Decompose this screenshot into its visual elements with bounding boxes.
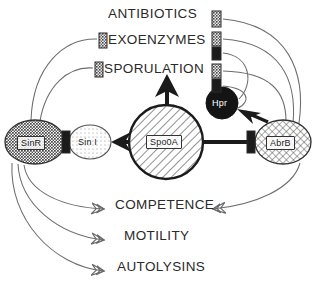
output-label-exoenzymes: EXOENZYMES [108,32,206,47]
diagram-canvas: ANTIBIOTICS EXOENZYMES SPORULATION COMPE… [0,0,316,283]
bar-abrb-sporulation [212,64,221,78]
edge-sinr-to-motility [18,164,104,240]
edge-sinr-to-autolysins [12,163,104,271]
node-label-sinr: SinR [17,136,45,150]
bar-spo0a-sinr [62,131,70,153]
arc-group-sinr-up [31,39,97,121]
node-group [5,87,311,179]
edge-sinr-to-exoenzymes [31,39,97,120]
bar-spo0a-abrb [247,131,255,153]
output-label-antibiotics: ANTIBIOTICS [108,6,197,21]
bar-abrb-exoenzymes [212,32,221,46]
edge-sinr-to-sporulation [40,68,93,121]
bar-abrb-antibiotics [212,11,221,27]
node-label-hpr: Hpr [212,98,227,108]
bar-sinr-sporulation [95,62,103,77]
output-label-sporulation: SPORULATION [104,61,204,76]
edge-abrb-to-competence [213,163,300,209]
node-label-spo0a: Spo0A [146,135,182,149]
edge-sinr-to-competence [24,165,104,209]
arc-group-lower [12,163,300,271]
output-label-motility: MOTILITY [124,228,189,243]
bar-hpr-exoenzymes [212,47,221,60]
bar-hpr-sporulation [212,79,221,92]
node-label-sini: Sin I [78,137,97,147]
output-label-competence: COMPETENCE [115,197,214,212]
node-label-abrb: AbrB [266,136,295,150]
bar-sinr-exoenzymes [99,33,107,48]
output-label-autolysins: AUTOLYSINS [117,259,205,274]
